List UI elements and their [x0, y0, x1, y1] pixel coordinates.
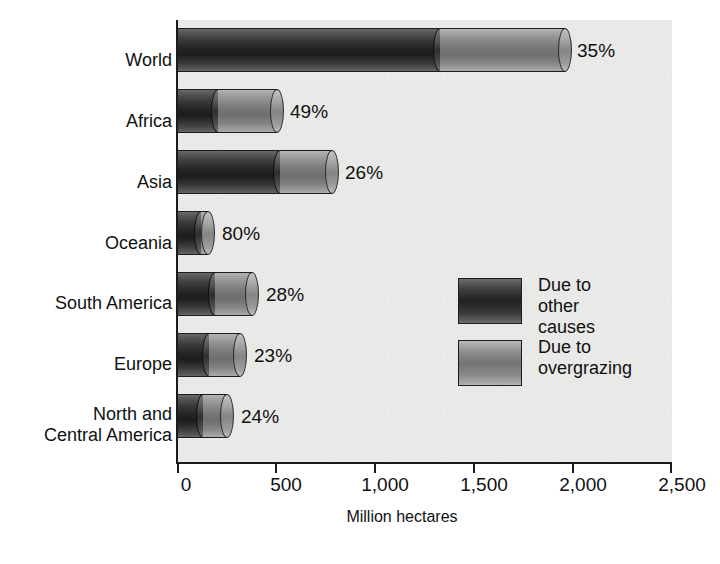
value-label-north-and-central-america: 24%	[241, 407, 279, 427]
x-axis-line	[176, 462, 672, 464]
bar-segment-overgrazing	[440, 28, 565, 72]
bar-oceania	[178, 211, 208, 255]
bar-north-and-central-america	[178, 394, 227, 438]
x-axis-title: Million hectares	[0, 508, 720, 526]
segment-cap	[201, 211, 215, 255]
value-label-world: 35%	[577, 41, 615, 61]
segment-body	[440, 28, 565, 72]
category-label-asia: Asia	[137, 172, 172, 193]
bar-segment-other-causes	[178, 394, 203, 438]
category-label-north-and-central-america: North and Central America	[44, 404, 172, 446]
bar-segment-overgrazing	[215, 272, 252, 316]
x-tick-label-2: 1,000	[361, 474, 409, 496]
value-label-south-america: 28%	[266, 285, 304, 305]
x-tick-label-3: 1,500	[460, 474, 508, 496]
x-tick-label-0: 0	[181, 474, 192, 496]
x-tick-1	[275, 464, 277, 473]
segment-cap	[233, 333, 247, 377]
bar-segment-overgrazing	[209, 333, 240, 377]
x-tick-label-1: 500	[270, 474, 302, 496]
bar-segment-overgrazing	[201, 211, 208, 255]
segment-cap	[325, 150, 339, 194]
bar-chart: 0 500 1,000 1,500 2,000 2,500 Million he…	[0, 0, 720, 564]
x-tick-2	[374, 464, 376, 473]
category-label-world: World	[125, 50, 172, 71]
category-label-south-america: South America	[55, 293, 172, 314]
segment-cap	[245, 272, 259, 316]
x-tick-4	[572, 464, 574, 473]
value-label-oceania: 80%	[222, 224, 260, 244]
segment-cap	[220, 394, 234, 438]
x-tick-5	[670, 464, 672, 473]
bar-segment-other-causes	[178, 272, 215, 316]
x-axis-title-text: Million hectares	[346, 508, 457, 525]
legend-label-other-causes: Due to other causes	[538, 275, 595, 338]
bar-segment-overgrazing	[218, 89, 277, 133]
value-label-asia: 26%	[345, 163, 383, 183]
x-tick-3	[473, 464, 475, 473]
category-label-europe: Europe	[114, 354, 172, 375]
x-tick-label-5: 2,500	[658, 474, 706, 496]
x-tick-0	[177, 464, 179, 473]
segment-cap	[558, 28, 572, 72]
value-label-africa: 49%	[290, 102, 328, 122]
bar-segment-other-causes	[178, 89, 218, 133]
bar-segment-overgrazing	[280, 150, 332, 194]
bar-africa	[178, 89, 277, 133]
bar-world	[178, 28, 565, 72]
legend-swatch-overgrazing	[458, 340, 522, 386]
bar-segment-other-causes	[178, 211, 201, 255]
x-tick-label-4: 2,000	[559, 474, 607, 496]
bar-asia	[178, 150, 332, 194]
bar-segment-overgrazing	[203, 394, 227, 438]
segment-body	[218, 89, 277, 133]
value-label-europe: 23%	[254, 346, 292, 366]
segment-cap	[270, 89, 284, 133]
segment-body	[178, 28, 440, 72]
category-label-oceania: Oceania	[105, 233, 172, 254]
segment-body	[178, 150, 280, 194]
bar-segment-other-causes	[178, 28, 440, 72]
bar-europe	[178, 333, 240, 377]
bar-south-america	[178, 272, 252, 316]
legend-swatch-other-causes	[458, 278, 522, 324]
bar-segment-other-causes	[178, 333, 209, 377]
legend-label-overgrazing: Due to overgrazing	[538, 337, 632, 379]
category-label-africa: Africa	[126, 111, 172, 132]
bar-segment-other-causes	[178, 150, 280, 194]
